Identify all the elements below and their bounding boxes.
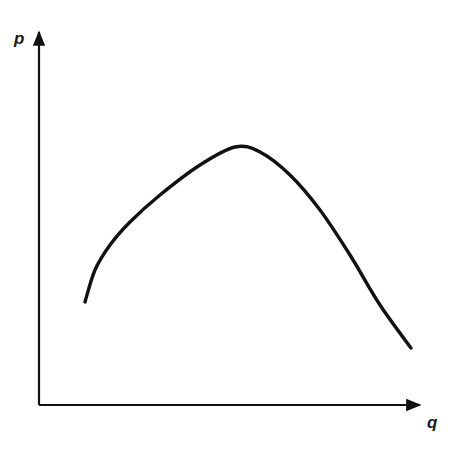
p-q-curve: [85, 146, 411, 348]
diagram-canvas: [0, 0, 456, 455]
x-axis-label: q: [427, 414, 437, 431]
y-axis-label: p: [14, 30, 24, 47]
